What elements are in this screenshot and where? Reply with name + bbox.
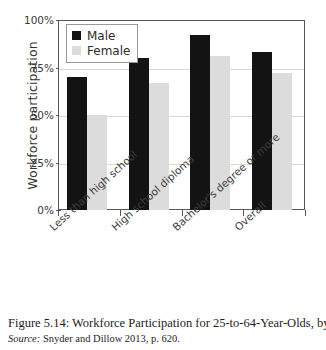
caption-source-text: Snyder and Dillow 2013, p. 620. [40,333,180,344]
figure-caption: Figure 5.14: Workforce Participation for… [8,316,326,345]
caption-title: Figure 5.14: Workforce Participation for… [8,316,326,331]
y-tick-label: 100% [14,14,54,26]
y-axis-ticks: 100%75%50%25%0% [8,20,54,210]
bar-male [190,35,210,210]
y-tick-label: 50% [14,109,54,121]
chart-legend: MaleFemale [66,24,138,63]
y-tick-label: 25% [14,157,54,169]
bar-male [129,58,149,210]
legend-item-female: Female [72,43,130,58]
legend-swatch-icon [72,31,81,40]
bar-male [252,52,272,210]
y-tick-label: 0% [14,204,54,216]
legend-swatch-icon [72,46,81,55]
caption-source-label: Source: [8,333,40,344]
legend-label: Male [87,29,115,43]
y-tick-label: 75% [14,62,54,74]
legend-item-male: Male [72,28,130,43]
x-tick-mark [305,210,306,216]
legend-label: Female [87,44,130,58]
caption-source: Source: Snyder and Dillow 2013, p. 620. [8,332,326,345]
